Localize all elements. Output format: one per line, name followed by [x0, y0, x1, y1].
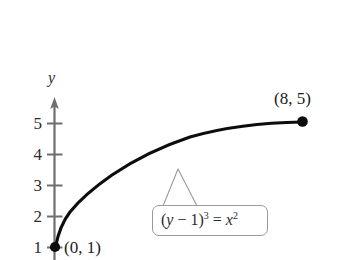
figure-container: y 5 4 3 2 1 (0, 1) (8, 5) (y − 1)3 = x2	[0, 0, 362, 260]
y-axis-label: y	[48, 70, 55, 86]
equation-callout-text: (y − 1)3 = x2	[161, 212, 238, 228]
point-marker-start	[50, 242, 60, 252]
start-point-label: (0, 1)	[64, 239, 101, 256]
eq-minus-one: − 1	[173, 211, 198, 228]
y-tick-label-3: 3	[26, 177, 42, 194]
point-marker-end	[297, 116, 308, 127]
y-tick-label-5: 5	[26, 115, 42, 132]
eq-equals: =	[209, 211, 226, 228]
callout-pointer	[163, 169, 197, 206]
eq-var-x: x	[226, 211, 233, 228]
y-tick-label-2: 2	[26, 208, 42, 225]
y-tick-label-4: 4	[26, 146, 42, 163]
end-point-label: (8, 5)	[274, 90, 311, 107]
y-tick-label-1: 1	[26, 239, 42, 256]
eq-exponent-two: 2	[233, 210, 238, 221]
